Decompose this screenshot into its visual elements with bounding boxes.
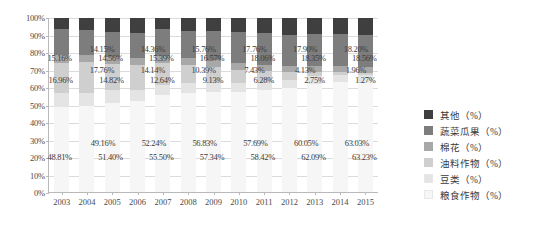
x-axis-tick-label: 2015 — [357, 197, 374, 207]
y-axis-tick-mark — [46, 193, 49, 194]
data-label: 4.13% — [295, 65, 315, 75]
data-label: 14.82% — [99, 75, 123, 85]
bar-segment[interactable] — [307, 18, 322, 34]
data-label: 51.40% — [98, 152, 122, 162]
legend-label: 粮食作物（%） — [440, 188, 508, 202]
legend-label: 棉花（%） — [440, 140, 488, 154]
data-label: 12.64% — [150, 75, 174, 85]
y-axis-tick-label: 90% — [30, 31, 45, 41]
bar-segment[interactable] — [333, 75, 348, 82]
data-label: 18.56% — [352, 53, 376, 63]
legend-item[interactable]: 豆类（%） — [424, 172, 508, 185]
legend-item[interactable]: 其他（%） — [424, 108, 508, 121]
bar-segment[interactable] — [54, 18, 69, 29]
legend-item[interactable]: 棉花（%） — [424, 140, 508, 153]
bar-segment[interactable] — [181, 58, 196, 65]
data-label: 48.81% — [47, 152, 71, 162]
bar-segment[interactable] — [54, 29, 69, 55]
bar-segment[interactable] — [54, 93, 69, 107]
x-axis-tick-mark — [163, 192, 164, 195]
x-axis-tick-mark — [214, 192, 215, 195]
bar-segment[interactable] — [79, 93, 94, 106]
bar-segment[interactable] — [105, 90, 120, 102]
data-label: 15.16% — [47, 53, 71, 63]
stacked-bar[interactable] — [54, 18, 69, 192]
data-label: 62.09% — [301, 152, 325, 162]
bar-segment[interactable] — [130, 90, 145, 101]
bar-segment[interactable] — [358, 18, 373, 35]
data-label: 9.13% — [203, 75, 223, 85]
x-axis-tick-label: 2004 — [78, 197, 95, 207]
data-label: 18.06% — [251, 53, 275, 63]
x-axis-tick-mark — [138, 192, 139, 195]
data-label: 58.42% — [251, 152, 275, 162]
data-label: 49.16% — [91, 138, 115, 148]
data-label: 10.39% — [191, 65, 215, 75]
data-label: 63.03% — [345, 138, 369, 148]
legend-label: 油料作物（%） — [440, 156, 508, 170]
x-axis-tick-label: 2008 — [180, 197, 197, 207]
x-axis-tick-label: 2007 — [154, 197, 171, 207]
bar-segment[interactable] — [231, 83, 246, 92]
bar-segment[interactable] — [257, 18, 272, 33]
legend-item[interactable]: 蔬菜瓜果（%） — [424, 124, 508, 137]
x-axis-tick-mark — [264, 192, 265, 195]
bar-segment[interactable] — [130, 58, 145, 65]
legend-swatch — [424, 158, 433, 167]
bar-segment[interactable] — [282, 18, 297, 35]
y-axis-tick-label: 70% — [30, 66, 45, 76]
data-label: 16.57% — [200, 53, 224, 63]
y-axis-tick-label: 10% — [30, 171, 45, 181]
bar-segment[interactable] — [155, 18, 170, 29]
y-axis-tick-label: 40% — [30, 118, 45, 128]
bar-segment[interactable] — [155, 85, 170, 96]
y-axis-tick-label: 30% — [30, 136, 45, 146]
data-label: 57.69% — [243, 138, 267, 148]
bar-segment[interactable] — [333, 18, 348, 34]
x-axis-tick-label: 2010 — [230, 197, 247, 207]
data-label: 15.39% — [149, 53, 173, 63]
bar-segment[interactable] — [79, 106, 94, 192]
legend-swatch — [424, 174, 433, 183]
bar-segment[interactable] — [206, 18, 221, 31]
legend-swatch — [424, 142, 433, 151]
y-axis-tick-label: 20% — [30, 153, 45, 163]
data-label: 7.43% — [244, 65, 264, 75]
data-label: 63.23% — [352, 152, 376, 162]
chart-legend: 其他（%）蔬菜瓜果（%）棉花（%）油料作物（%）豆类（%）粮食作物（%） — [424, 108, 508, 201]
bar-segment[interactable] — [181, 18, 196, 31]
bar-segment[interactable] — [79, 55, 94, 63]
bar-segment[interactable] — [130, 18, 145, 33]
data-label: 16.96% — [48, 75, 72, 85]
bar-segment[interactable] — [282, 80, 297, 88]
data-label: 17.76% — [90, 65, 114, 75]
bar-segment[interactable] — [105, 18, 120, 32]
bar-segment[interactable] — [231, 18, 246, 32]
data-label: 14.56% — [98, 53, 122, 63]
bar-segment[interactable] — [54, 107, 69, 192]
y-axis-tick-label: 0% — [34, 188, 45, 198]
x-axis-tick-label: 2012 — [281, 197, 298, 207]
legend-item[interactable]: 油料作物（%） — [424, 156, 508, 169]
x-axis-tick-label: 2013 — [306, 197, 323, 207]
y-axis-tick-label: 100% — [26, 13, 45, 23]
data-label: 57.34% — [200, 152, 224, 162]
legend-item[interactable]: 粮食作物（%） — [424, 188, 508, 201]
data-label: 52.24% — [142, 138, 166, 148]
data-label: 1.96% — [346, 65, 366, 75]
data-label: 60.05% — [294, 138, 318, 148]
data-label: 14.14% — [141, 65, 165, 75]
x-axis-tick-mark — [315, 192, 316, 195]
legend-label: 豆类（%） — [440, 172, 488, 186]
x-axis-tick-label: 2014 — [332, 197, 349, 207]
data-label: 2.75% — [304, 75, 324, 85]
bar-segment[interactable] — [358, 82, 373, 192]
bar-segment[interactable] — [181, 83, 196, 93]
x-axis-tick-label: 2011 — [256, 197, 273, 207]
y-axis-tick-label: 50% — [30, 101, 45, 111]
data-label: 6.28% — [254, 75, 274, 85]
bar-segment[interactable] — [79, 18, 94, 30]
x-axis-tick-label: 2009 — [205, 197, 222, 207]
legend-swatch — [424, 110, 433, 119]
x-axis-tick-mark — [239, 192, 240, 195]
